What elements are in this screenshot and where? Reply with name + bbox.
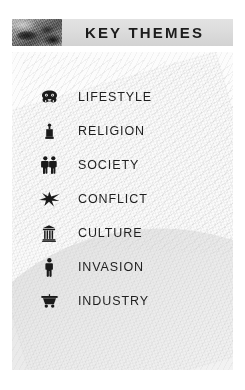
monument-pillar-icon xyxy=(34,123,64,140)
themes-panel: LIFESTYLE RELIGION xyxy=(12,52,233,370)
star-burst-icon xyxy=(34,191,64,207)
header-band: KEY THEMES xyxy=(12,19,233,46)
list-item-label: CONFLICT xyxy=(78,192,148,206)
list-item[interactable]: INVASION xyxy=(12,250,233,284)
key-themes-page: KEY THEMES xyxy=(0,0,245,390)
mine-cart-icon xyxy=(34,294,64,308)
list-item-label: CULTURE xyxy=(78,226,142,240)
page-title: KEY THEMES xyxy=(62,24,233,41)
thumbnail-grain-overlay xyxy=(12,19,62,46)
two-people-icon xyxy=(34,156,64,174)
standing-figure-icon xyxy=(34,258,64,277)
photo-thumbnail-icon xyxy=(12,19,62,46)
list-item[interactable]: CULTURE xyxy=(12,216,233,250)
mask-face-icon xyxy=(34,90,64,105)
list-item[interactable]: SOCIETY xyxy=(12,148,233,182)
list-item-label: RELIGION xyxy=(78,124,145,138)
list-item[interactable]: INDUSTRY xyxy=(12,284,233,318)
theme-list: LIFESTYLE RELIGION xyxy=(12,52,233,318)
list-item[interactable]: CONFLICT xyxy=(12,182,233,216)
list-item[interactable]: LIFESTYLE xyxy=(12,80,233,114)
list-item-label: INDUSTRY xyxy=(78,294,149,308)
list-item-label: INVASION xyxy=(78,260,144,274)
classical-urn-icon xyxy=(34,225,64,242)
list-item[interactable]: RELIGION xyxy=(12,114,233,148)
list-item-label: SOCIETY xyxy=(78,158,139,172)
list-item-label: LIFESTYLE xyxy=(78,90,152,104)
